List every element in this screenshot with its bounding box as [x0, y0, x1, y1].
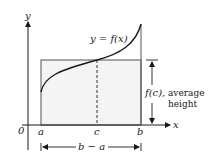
y-axis-label: y: [24, 10, 31, 21]
average-rectangle: [41, 60, 141, 125]
width-label: b − a: [78, 141, 105, 152]
point-b-label: b: [137, 126, 143, 137]
point-c-label: c: [94, 126, 100, 137]
point-a-label: a: [38, 126, 44, 137]
height-label: height: [168, 99, 198, 109]
mean-value-diagram: y x 0 a c b y = f(x) b − a f(c), average…: [0, 0, 213, 160]
curve-label: y = f(x): [89, 33, 128, 44]
average-label: average: [168, 88, 205, 98]
origin-label: 0: [18, 125, 25, 136]
fc-label: f(c),: [144, 87, 165, 98]
x-axis-label: x: [173, 119, 179, 130]
